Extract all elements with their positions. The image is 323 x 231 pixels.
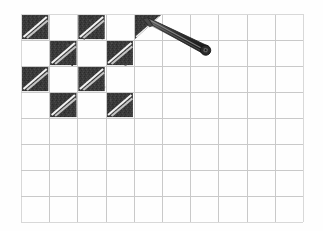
cell-texture-fleck bbox=[84, 22, 86, 23]
grid-canvas-svg[interactable] bbox=[0, 0, 323, 231]
shaded-cell[interactable] bbox=[78, 67, 105, 91]
cell-texture-fleck bbox=[28, 21, 29, 22]
cell-texture-fleck bbox=[57, 43, 58, 45]
shaded-cell[interactable] bbox=[107, 93, 133, 117]
cell-texture-fleck bbox=[40, 87, 42, 88]
drawing-canvas[interactable] bbox=[0, 0, 323, 231]
cell-texture-fleck bbox=[158, 38, 160, 39]
cell-texture-fleck bbox=[123, 45, 124, 46]
cell-texture-fleck bbox=[102, 38, 103, 40]
cell-texture-fleck bbox=[147, 37, 149, 39]
cell-texture-fleck bbox=[89, 76, 90, 77]
cell-texture-fleck bbox=[22, 79, 24, 81]
cell-texture-fleck bbox=[155, 35, 156, 36]
cell-texture-fleck bbox=[113, 53, 115, 54]
cell-texture-fleck bbox=[89, 20, 91, 22]
cell-texture-fleck bbox=[51, 57, 53, 58]
cell-texture-fleck bbox=[90, 17, 92, 19]
cell-texture-fleck bbox=[25, 18, 27, 19]
cell-texture-fleck bbox=[71, 65, 73, 67]
cell-texture-fleck bbox=[137, 23, 138, 24]
cell-texture-fleck bbox=[160, 32, 162, 34]
cell-texture-fleck bbox=[45, 89, 47, 91]
cell-texture-fleck bbox=[64, 111, 65, 113]
cell-texture-fleck bbox=[42, 30, 44, 31]
cell-texture-fleck bbox=[42, 37, 43, 38]
cell-texture-fleck bbox=[70, 95, 71, 97]
cell-texture-fleck bbox=[25, 31, 26, 33]
cell-texture-fleck bbox=[102, 86, 104, 88]
cell-texture-fleck bbox=[96, 38, 98, 39]
cell-texture-fleck bbox=[128, 114, 129, 116]
cell-texture-fleck bbox=[126, 112, 128, 113]
cell-texture-fleck bbox=[97, 28, 99, 29]
cell-texture-fleck bbox=[124, 64, 126, 66]
cell-texture-fleck bbox=[56, 96, 58, 98]
cell-texture-fleck bbox=[55, 64, 56, 65]
cell-texture-fleck bbox=[145, 35, 147, 37]
cell-texture-fleck bbox=[31, 68, 32, 69]
cell-texture-fleck bbox=[127, 107, 128, 109]
cell-texture-fleck bbox=[147, 35, 149, 37]
cell-texture-fleck bbox=[53, 105, 55, 106]
cell-texture-fleck bbox=[79, 23, 81, 24]
shaded-cell[interactable] bbox=[22, 15, 48, 39]
cell-texture-fleck bbox=[26, 80, 28, 81]
cell-texture-fleck bbox=[111, 100, 112, 102]
shaded-cell[interactable] bbox=[107, 41, 133, 66]
shaded-cell[interactable] bbox=[50, 41, 76, 66]
cell-texture-fleck bbox=[104, 87, 106, 88]
cell-texture-fleck bbox=[38, 16, 40, 17]
shaded-cell[interactable] bbox=[50, 93, 76, 117]
cell-texture-fleck bbox=[50, 52, 51, 54]
cell-texture-fleck bbox=[67, 44, 69, 46]
cell-texture-fleck bbox=[32, 38, 33, 40]
cell-texture-fleck bbox=[110, 99, 111, 101]
cell-texture-fleck bbox=[68, 114, 70, 115]
cell-texture-fleck bbox=[38, 37, 40, 38]
cell-texture-fleck bbox=[160, 18, 161, 19]
cell-texture-fleck bbox=[67, 93, 68, 94]
cell-texture-fleck bbox=[24, 73, 25, 74]
cell-texture-fleck bbox=[73, 57, 75, 59]
shaded-cell[interactable] bbox=[22, 67, 48, 91]
cell-texture-fleck bbox=[23, 34, 24, 35]
cell-texture-fleck bbox=[79, 31, 81, 33]
cell-texture-fleck bbox=[46, 23, 48, 24]
cell-texture-fleck bbox=[111, 43, 113, 44]
cell-texture-fleck bbox=[40, 83, 41, 85]
cell-texture-fleck bbox=[69, 42, 71, 44]
cell-texture-fleck bbox=[53, 102, 54, 103]
stylus-pen-cursor[interactable] bbox=[143, 18, 213, 57]
cell-texture-fleck bbox=[117, 45, 118, 46]
shaded-cell[interactable] bbox=[78, 15, 104, 41]
